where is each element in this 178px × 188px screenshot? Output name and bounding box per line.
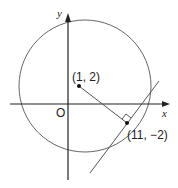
circle-tangent-diagram: y x O (1, 2) (11, −2) [0,0,178,188]
tangent-point-label: (11, −2) [127,128,168,142]
x-axis-label: x [161,107,167,119]
tangent-line [90,81,159,173]
origin-label: O [56,106,65,120]
y-axis-arrow-icon [65,13,71,22]
right-angle-mark [122,114,131,119]
center-label: (1, 2) [72,70,100,84]
tangent-point [125,121,129,125]
center-point [77,84,81,88]
y-axis-label: y [56,7,62,19]
